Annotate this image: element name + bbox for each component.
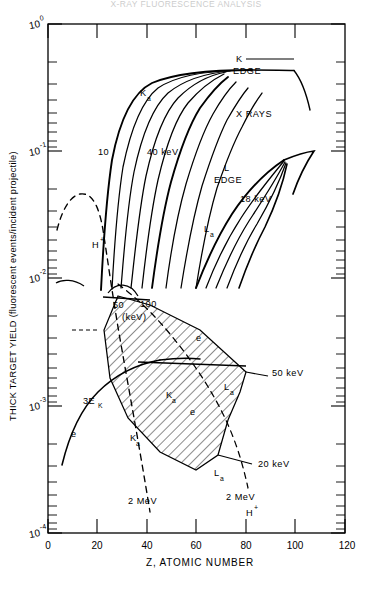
annotation-kev-unit: (keV) [122,312,146,322]
annotation-e-lower: e [190,407,196,417]
y-tick-exponent: 0 [39,14,44,22]
x-tick-label: 0 [45,540,51,551]
annotation-10: 10 [98,147,109,157]
subscript-alpha: a [220,475,224,482]
y-tick-labels: 10 0 10 -1 10 -2 10 -3 10 -4 [27,14,48,540]
subscript-k: K [98,402,103,409]
annotation-100: 100 [140,299,157,309]
y-tick-exponent: -2 [39,268,47,276]
annotation-20-kev: 20 keV [258,459,290,469]
figure-canvas: X-RAY FLUORESCENCE ANALYSIS [0,0,372,589]
annotation-k-edge-line2: EDGE [233,66,261,76]
y-axis-title: THICK TARGET YIELD (fluorescent events/i… [8,151,18,421]
y-tick-exponent: -1 [39,141,47,149]
y-tick-exponent: -4 [39,523,47,531]
annotation-l-alpha-mid: L [224,382,230,392]
x-tick-label: 40 [141,540,153,551]
subscript-alpha: a [147,95,151,102]
subscript-alpha: a [230,389,234,396]
y-tick-label: 10 -3 [27,396,48,414]
figure-title-remnant: X-RAY FLUORESCENCE ANALYSIS [110,0,261,9]
l-shell-curve-family [196,151,314,288]
annotation-e-upper: e [196,333,202,343]
y-tick-label: 10 -1 [27,141,48,159]
annotation-50-kev: 50 keV [272,368,304,378]
annotation-40-kev: 40 keV [147,147,179,157]
chart-svg: X-RAY FLUORESCENCE ANALYSIS [0,0,372,589]
x-tick-label: 80 [240,540,252,551]
annotation-l-alpha-low: L [214,468,220,478]
x-tick-labels: 0 20 40 60 80 100 120 [45,540,356,551]
x-tick-label: 60 [190,540,202,551]
y-tick-label: 10 -2 [27,268,48,286]
superscript-plus: + [254,504,258,511]
annotation-2mev-right: 2 MeV [226,492,255,502]
annotation-e-left: e [71,429,77,439]
annotation-l-edge-line2: EDGE [214,175,242,185]
subscript-alpha: a [172,397,176,404]
annotation-k-alpha-top: K [140,88,147,98]
annotation-x-rays: X RAYS [236,109,272,119]
annotation-h-plus-top: H [92,240,99,250]
y-tick-exponent: -3 [39,396,47,404]
x-tick-label: 120 [339,540,356,551]
x-tick-label: 20 [91,540,103,551]
annotation-l-edge: L [224,163,230,173]
subscript-alpha: a [136,440,140,447]
y-tick-label: 10 0 [27,14,46,31]
subscript-alpha: a [210,231,214,238]
annotation-h-plus-low: H [246,508,253,518]
annotation-2mev-left: 2 MeV [128,496,157,506]
annotation-18-kev: 18 keV [240,194,272,204]
annotation-l-alpha-top: L [204,224,210,234]
annotation-3ek: 3E [83,396,95,406]
k-shell-curve-family [101,70,310,290]
x-tick-label: 100 [287,540,304,551]
annotation-50: 50 [113,300,124,310]
band-arc-detail [56,280,138,296]
superscript-plus: + [100,236,104,243]
annotation-k-edge: K [236,54,243,64]
x-axis-title: Z, ATOMIC NUMBER [146,557,254,568]
y-tick-label: 10 -4 [27,523,48,541]
partial-title-text: X-RAY FLUORESCENCE ANALYSIS [110,0,261,9]
